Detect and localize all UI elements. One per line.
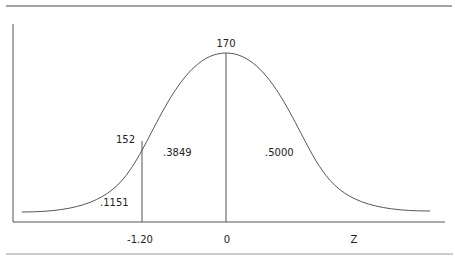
left-tail-area-label: .1151 [100, 197, 129, 208]
x-tick-zero: 0 [224, 234, 230, 245]
x-axis-label-z: Z [351, 234, 358, 245]
cutoff-value-label: 152 [116, 134, 135, 145]
peak-value-label: 170 [216, 38, 235, 49]
normal-curve-diagram: 170 152 .3849 .5000 .1151 -1.20 0 Z [0, 0, 455, 256]
right-half-area-label: .5000 [265, 147, 294, 158]
middle-area-label: .3849 [163, 147, 192, 158]
x-tick-neg120: -1.20 [127, 234, 153, 245]
